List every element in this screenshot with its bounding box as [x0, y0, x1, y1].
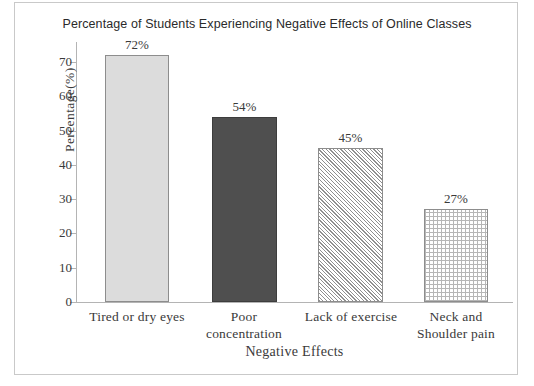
y-tick-label: 10 [59, 259, 72, 277]
x-category-label-line1: Neck and [392, 308, 520, 325]
bar-value-label: 54% [233, 99, 257, 115]
x-category-label-line2: concentration [180, 325, 308, 342]
bar-poor-concentration[interactable]: 54% [212, 117, 277, 302]
y-tick-label: 30 [59, 190, 72, 208]
bar-lack-of-exercise[interactable]: 45% [318, 148, 383, 302]
x-axis-title: Negative Effects [76, 344, 513, 360]
y-tick-label: 20 [59, 224, 72, 242]
x-axis-line [76, 302, 513, 303]
bar-value-label: 27% [444, 191, 468, 207]
y-tick-20: 20 [76, 233, 77, 234]
y-tick-label: 40 [59, 156, 72, 174]
x-category-label-4: Neck and Shoulder pain [392, 308, 520, 342]
bar-value-label: 72% [125, 37, 149, 53]
y-tick-40: 40 [76, 165, 77, 166]
bar-tired-or-dry-eyes[interactable]: 72% [105, 55, 169, 302]
y-tick-label: 0 [66, 293, 73, 311]
bar-neck-and-shoulder-pain[interactable]: 27% [424, 209, 488, 302]
chart-title: Percentage of Students Experiencing Nega… [0, 17, 534, 31]
bar-value-label: 45% [339, 130, 363, 146]
y-tick-30: 30 [76, 199, 77, 200]
y-tick-70: 70 [76, 62, 77, 63]
y-axis-title: Percentage(%) [62, 67, 78, 152]
y-tick-10: 10 [76, 268, 77, 269]
y-tick-0: 0 [76, 302, 77, 303]
x-category-label-line2: Shoulder pain [392, 325, 520, 342]
plot-area: 0 10 20 30 40 50 60 70 Percentage(%) 72%… [76, 42, 513, 302]
